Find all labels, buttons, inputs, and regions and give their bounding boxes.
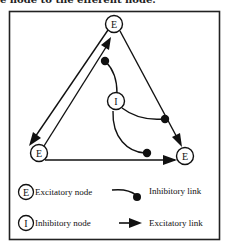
network-diagram: E E E I E Excitatory node I Inhibitory n… xyxy=(0,0,227,248)
legend-e-symbol: E xyxy=(23,187,29,198)
inhibitory-dot-icon xyxy=(101,57,109,65)
inhibitory-link-icon xyxy=(112,190,136,195)
legend: E Excitatory node I Inhibitory node Inhi… xyxy=(19,185,204,231)
node-label: I xyxy=(114,96,117,107)
legend-excitatory-node-label: Excitatory node xyxy=(35,187,92,197)
link-top-to-bottom-left xyxy=(33,30,108,140)
arrowhead-icon xyxy=(172,133,182,147)
link-bottom-left-to-top xyxy=(44,44,108,146)
legend-inhibitory-node: I Inhibitory node xyxy=(19,216,91,231)
inhibitory-dot-icon xyxy=(143,149,151,157)
node-label: E xyxy=(36,148,42,159)
inhibitory-dot-icon xyxy=(133,193,141,201)
arrowhead-icon xyxy=(129,218,142,228)
excitatory-links xyxy=(29,30,182,165)
link-top-to-bottom-right xyxy=(120,31,180,143)
legend-excitatory-link: Excitatory link xyxy=(119,218,203,228)
legend-i-symbol: I xyxy=(24,218,27,229)
node-top: E xyxy=(106,16,123,33)
node-bottom-right: E xyxy=(177,148,194,165)
inhibitory-link-to-right-edge xyxy=(122,108,163,119)
node-label: E xyxy=(111,19,117,30)
legend-excitatory-link-label: Excitatory link xyxy=(149,218,203,228)
node-bottom-left: E xyxy=(31,145,48,162)
inhibitory-dot-icon xyxy=(161,115,169,123)
arrowhead-icon xyxy=(163,155,177,165)
legend-inhibitory-link-label: Inhibitory link xyxy=(149,186,202,196)
legend-excitatory-node: E Excitatory node xyxy=(19,185,93,200)
node-label: E xyxy=(182,151,188,162)
inhibitory-link-to-left-edge xyxy=(106,62,117,93)
legend-inhibitory-link: Inhibitory link xyxy=(112,186,202,201)
node-center: I xyxy=(108,93,125,110)
legend-inhibitory-node-label: Inhibitory node xyxy=(35,218,91,228)
